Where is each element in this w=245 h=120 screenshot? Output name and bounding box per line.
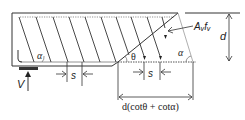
spacing-label-left: s: [71, 70, 76, 81]
alpha-arc-left: [42, 56, 44, 62]
theta-label: θ: [131, 51, 136, 62]
spacing-label-right: s: [148, 68, 153, 79]
alpha-label-right: α: [178, 47, 184, 58]
rebar-hook: [18, 50, 22, 62]
reaction-arrow: [25, 71, 31, 91]
alpha-arc-right: [186, 56, 191, 62]
depth-label: d: [220, 30, 227, 42]
theta-arc: [125, 56, 127, 62]
reaction-label: V: [17, 78, 26, 90]
support-plate: [19, 67, 38, 70]
shear-diagram: α θ α Aᵥfᵥ d s s V d(cotθ + cotα): [0, 0, 245, 120]
depth-dimension: [226, 14, 232, 61]
stirrup-force-label: Aᵥfᵥ: [193, 21, 211, 32]
crack-projection-dimension: [118, 62, 193, 100]
crack-projection-label: d(cotθ + cotα): [122, 101, 179, 113]
force-leader-arrow: [168, 26, 193, 33]
alpha-label-left: α: [37, 50, 43, 61]
